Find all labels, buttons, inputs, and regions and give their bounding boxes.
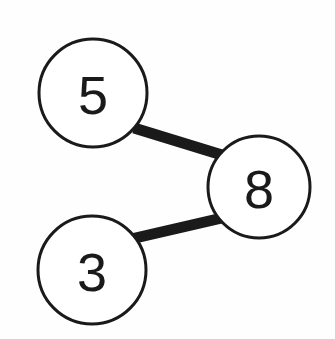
edge-3-to-8[interactable]: [131, 218, 222, 239]
node-8[interactable]: 8: [208, 136, 310, 238]
graph-svg: 5 3 8: [0, 0, 335, 339]
edge-5-to-8[interactable]: [134, 128, 222, 155]
diagram-canvas: 5 3 8: [0, 0, 335, 339]
node-3[interactable]: 3: [38, 216, 146, 324]
node-3-label: 3: [77, 242, 107, 302]
node-5-label: 5: [78, 65, 108, 125]
node-8-label: 8: [244, 159, 274, 219]
node-5[interactable]: 5: [39, 39, 147, 147]
